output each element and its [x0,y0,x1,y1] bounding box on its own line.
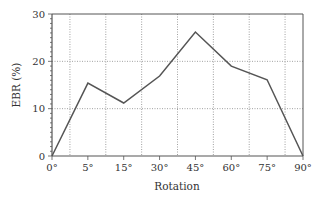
y-tick-label: 10 [32,103,45,114]
x-tick-label: 5° [82,162,93,173]
x-axis: 0°5°15°30°45°60°75°90° [46,156,312,173]
y-tick-label: 30 [32,9,45,20]
x-tick-label: 45° [187,162,205,173]
x-tick-label: 60° [222,162,240,173]
y-tick-label: 20 [32,56,45,67]
gridlines [52,14,303,156]
x-tick-label: 0° [46,162,57,173]
line-chart: 0102030 0°5°15°30°45°60°75°90° Rotation … [0,0,328,197]
x-axis-title: Rotation [154,180,200,192]
y-axis-title: EBR (%) [10,63,22,108]
y-axis: 0102030 [32,9,52,162]
x-tick-label: 90° [294,162,312,173]
x-tick-label: 30° [151,162,169,173]
y-tick-label: 0 [39,151,45,162]
x-tick-label: 75° [258,162,276,173]
x-tick-label: 15° [115,162,133,173]
